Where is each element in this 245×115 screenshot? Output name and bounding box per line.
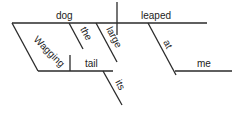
- participle-word: Wagging: [32, 34, 67, 69]
- sentence-diagram: dog leaped the large Wagging tail its at…: [0, 0, 245, 115]
- modifier-word-its: its: [113, 78, 127, 92]
- participle-diagonal: [12, 23, 38, 71]
- participle-word-wagging: Wagging: [32, 34, 67, 69]
- modifier-word-the: the: [78, 25, 94, 43]
- preposition-diagonal: [148, 23, 176, 75]
- predicate-word: leaped: [141, 10, 171, 21]
- preposition-word: at: [161, 38, 175, 51]
- modifier-line-the: [69, 23, 83, 49]
- preposition-object-word: me: [197, 58, 211, 69]
- participle-object-word: tail: [85, 58, 98, 69]
- modifier-word-large: large: [104, 25, 124, 50]
- subject-word: dog: [56, 10, 73, 21]
